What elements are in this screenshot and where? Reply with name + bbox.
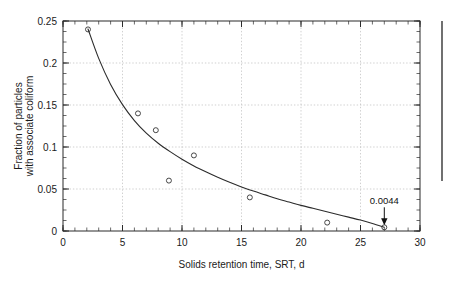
y-tick-label: 0.05 <box>38 184 58 195</box>
x-tick-label: 5 <box>120 237 126 248</box>
y-axis-title-line-2: with associate coliform <box>24 76 35 178</box>
x-tick-label: 10 <box>176 237 188 248</box>
y-tick-label: 0 <box>51 226 57 237</box>
y-tick-label: 0.1 <box>43 142 57 153</box>
y-axis-tick-labels: 00.050.10.150.20.25 <box>38 16 58 237</box>
x-tick-label: 20 <box>295 237 307 248</box>
x-axis-tick-labels: 051015202530 <box>60 237 426 248</box>
annotation-label: 0.0044 <box>370 195 399 206</box>
x-tick-label: 30 <box>414 237 426 248</box>
y-tick-label: 0.2 <box>43 58 57 69</box>
x-tick-label: 15 <box>236 237 248 248</box>
y-axis-title-line-1: Fraction of particles <box>13 82 24 169</box>
x-tick-label: 0 <box>60 237 66 248</box>
y-tick-label: 0.15 <box>38 100 58 111</box>
figure-container: 051015202530 00.050.10.150.20.25 0.0044 … <box>0 0 459 283</box>
x-axis-title: Solids retention time, SRT, d <box>179 259 305 270</box>
scatter-chart: 051015202530 00.050.10.150.20.25 0.0044 … <box>0 0 459 283</box>
x-tick-label: 25 <box>355 237 367 248</box>
y-tick-label: 0.25 <box>38 16 58 27</box>
